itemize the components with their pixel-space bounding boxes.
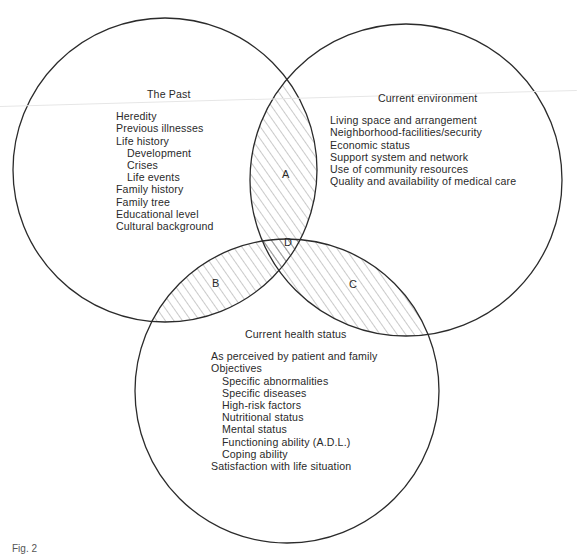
set-item: Cultural background <box>116 220 214 232</box>
set-health: Current health status As perceived by pa… <box>211 328 377 472</box>
set-items: Living space and arrangementNeighborhood… <box>330 114 516 187</box>
set-item: Life history <box>116 135 214 147</box>
set-item: Living space and arrangement <box>330 114 516 126</box>
set-item: Heredity <box>116 110 214 122</box>
set-item: Family history <box>116 183 214 195</box>
set-item: Specific diseases <box>211 387 377 399</box>
set-item: High-risk factors <box>211 399 377 411</box>
region-label-c: C <box>349 278 357 290</box>
region-label-b: B <box>212 277 219 289</box>
region-label-d: D <box>284 236 292 248</box>
set-item: Use of community resources <box>330 163 516 175</box>
set-item: Mental status <box>211 423 377 435</box>
set-past: The Past HeredityPrevious illnessesLife … <box>116 88 214 232</box>
set-title: Current environment <box>378 92 516 104</box>
region-label-a: A <box>282 168 289 180</box>
set-item: Crises <box>116 159 214 171</box>
set-item: Nutritional status <box>211 411 377 423</box>
set-item: Functioning ability (A.D.L.) <box>211 436 377 448</box>
set-title: Current health status <box>245 328 377 340</box>
set-item: Objectives <box>211 362 377 374</box>
set-item: Coping ability <box>211 448 377 460</box>
set-item: Previous illnesses <box>116 122 214 134</box>
set-item: Family tree <box>116 196 214 208</box>
set-items: HeredityPrevious illnessesLife historyDe… <box>116 110 214 232</box>
set-item: Life events <box>116 171 214 183</box>
set-item: Support system and network <box>330 151 516 163</box>
set-item: Specific abnormalities <box>211 375 377 387</box>
set-item: Economic status <box>330 139 516 151</box>
set-items: As perceived by patient and familyObject… <box>211 350 377 472</box>
set-title: The Past <box>147 88 214 100</box>
set-item: Development <box>116 147 214 159</box>
set-item: Educational level <box>116 208 214 220</box>
set-item: Satisfaction with life situation <box>211 460 377 472</box>
figure-caption: Fig. 2 <box>12 543 37 554</box>
set-item: Quality and availability of medical care <box>330 175 516 187</box>
set-environment: Current environment Living space and arr… <box>330 92 516 187</box>
set-item: As perceived by patient and family <box>211 350 377 362</box>
set-item: Neighborhood-facilities/security <box>330 126 516 138</box>
